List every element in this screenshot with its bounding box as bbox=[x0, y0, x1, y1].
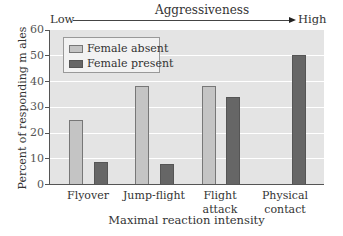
bar-jumpflight-female-present bbox=[160, 164, 174, 184]
legend: Female absent Female present bbox=[63, 37, 160, 73]
y-tick-mark bbox=[45, 184, 50, 185]
y-tick-30: 30 bbox=[22, 100, 44, 113]
bar-flyover-female-absent bbox=[69, 120, 83, 184]
bar-flyover-female-present bbox=[94, 162, 108, 184]
legend-label-absent: Female absent bbox=[87, 42, 168, 55]
y-tick-10: 10 bbox=[22, 152, 44, 165]
plot-area: Female absent Female present bbox=[49, 30, 324, 185]
y-tick-mark bbox=[45, 81, 50, 82]
y-tick-60: 60 bbox=[22, 23, 44, 36]
y-tick-20: 20 bbox=[22, 126, 44, 139]
low-label: Low bbox=[50, 12, 74, 26]
category-flyover: Flyover bbox=[53, 189, 123, 203]
category-label: Flyover bbox=[67, 189, 109, 202]
x-axis-title: Maximal reaction intensity bbox=[49, 213, 324, 227]
y-tick-mark bbox=[45, 158, 50, 159]
aggressiveness-label: Aggressiveness bbox=[155, 3, 249, 17]
bar-flightattack-female-absent bbox=[202, 86, 216, 184]
arrow-right-icon bbox=[289, 17, 296, 23]
y-tick-50: 50 bbox=[22, 49, 44, 62]
legend-label-present: Female present bbox=[87, 57, 174, 70]
y-tick-40: 40 bbox=[22, 75, 44, 88]
legend-item-female-absent: Female absent bbox=[69, 42, 168, 55]
gridline-10 bbox=[50, 158, 324, 159]
y-tick-mark bbox=[45, 133, 50, 134]
category-label-line1: Flight bbox=[185, 189, 255, 203]
y-tick-mark bbox=[45, 107, 50, 108]
high-label: High bbox=[298, 12, 326, 26]
bar-flightattack-female-present bbox=[226, 97, 240, 184]
legend-item-female-present: Female present bbox=[69, 57, 174, 70]
y-tick-mark bbox=[45, 55, 50, 56]
category-jump-flight: Jump-flight bbox=[119, 189, 189, 203]
gridline-30 bbox=[50, 107, 324, 108]
y-tick-0: 0 bbox=[22, 178, 44, 191]
y-tick-mark bbox=[45, 30, 50, 31]
category-label-line1: Physical bbox=[250, 189, 320, 203]
gridline-40 bbox=[50, 81, 324, 82]
bar-physicalcontact-female-present bbox=[292, 55, 306, 184]
swatch-light-gray bbox=[69, 45, 83, 53]
gridline-20 bbox=[50, 133, 324, 134]
swatch-dark-gray bbox=[69, 60, 83, 68]
bar-jumpflight-female-absent bbox=[135, 86, 149, 184]
category-label: Jump-flight bbox=[123, 189, 185, 202]
aggressiveness-arrow-line bbox=[73, 20, 291, 21]
